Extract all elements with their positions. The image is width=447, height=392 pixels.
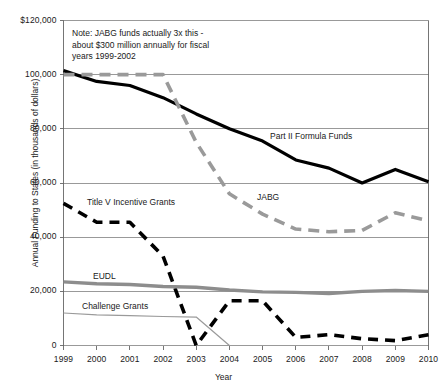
note-line-1: Note: JABG funds actually 3x this - <box>72 28 287 40</box>
series-line-eudl <box>64 282 429 294</box>
note-line-2: about $300 million annually for fiscal <box>72 40 287 52</box>
y-axis-tick-100000: 100,000 <box>0 69 57 79</box>
series-label-jabg: JABG <box>257 192 279 202</box>
series-line-title-v-incentive-grants <box>64 203 429 345</box>
x-axis-title: Year <box>0 372 447 382</box>
series-line-challenge-grants <box>64 313 230 346</box>
series-label-eudl: EUDL <box>93 271 116 281</box>
y-axis-tick-60000: 60,000 <box>0 177 57 187</box>
series-line-part-ii-formula-funds <box>64 71 429 183</box>
y-axis-tick-120000: $120,000 <box>0 15 57 25</box>
y-axis-tick-80000: 80,000 <box>0 123 57 133</box>
note-line-3: years 1999-2002 <box>72 51 287 63</box>
chart-container: $120,000100,00080,00060,00040,00020,0000… <box>0 0 447 392</box>
gridlines <box>64 21 429 346</box>
y-axis-tick-40000: 40,000 <box>0 231 57 241</box>
series-label-title-v-incentive-grants: Title V Incentive Grants <box>87 197 175 207</box>
y-axis-tick-20000: 20,000 <box>0 285 57 295</box>
y-axis-tick-0: 0 <box>0 340 57 350</box>
series-label-challenge-grants: Challenge Grants <box>82 301 148 311</box>
series-label-part-ii-formula-funds: Part II Formula Funds <box>270 131 352 141</box>
y-axis-title: Annual Funding to States (in thousands o… <box>30 63 40 283</box>
series-line-jabg <box>64 75 429 232</box>
x-axis-tick-2010: 2010 <box>409 354 447 364</box>
chart-annotation-note: Note: JABG funds actually 3x this - abou… <box>72 28 287 63</box>
